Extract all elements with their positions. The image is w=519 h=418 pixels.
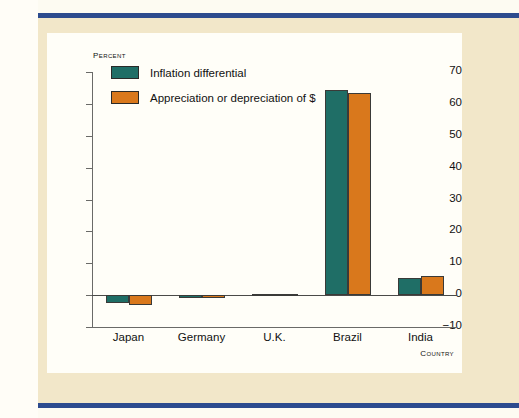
y-tick-label-10: 10 [426, 255, 462, 267]
page-binding-edge [0, 0, 38, 418]
y-tick-label-50: 50 [426, 128, 462, 140]
bar-germany-series2 [202, 295, 225, 298]
x-label-germany: Germany [165, 331, 238, 343]
y-tick-label-60: 60 [426, 96, 462, 108]
bar-india-series2 [421, 276, 444, 295]
legend-item-appreciation-depreciation: Appreciation or depreciation of $ [111, 88, 316, 107]
chart-legend: Inflation differential Appreciation or d… [111, 63, 316, 113]
legend-label-inflation-differential: Inflation differential [150, 67, 246, 79]
x-label-india: India [384, 331, 457, 343]
x-label-japan: Japan [92, 331, 165, 343]
bar-germany-series1 [179, 295, 202, 298]
y-tick-label-40: 40 [426, 160, 462, 172]
y-tick-label--10: −10 [426, 319, 462, 331]
x-axis-title: Country [420, 346, 454, 358]
bar-uk-series2 [275, 294, 298, 296]
x-axis-line [92, 327, 457, 328]
bar-brazil-series1 [325, 90, 348, 296]
x-label-uk: U.K. [238, 331, 311, 343]
legend-label-appreciation-depreciation: Appreciation or depreciation of $ [150, 92, 316, 104]
bar-chart: Percent −10010203040506070 Inflation dif… [47, 33, 462, 373]
legend-swatch-teal [111, 66, 139, 79]
bar-japan-series2 [129, 295, 152, 305]
bar-india-series1 [398, 278, 421, 296]
bar-japan-series1 [106, 295, 129, 303]
y-tick-label-30: 30 [426, 192, 462, 204]
y-axis-line [92, 72, 93, 328]
y-tick-label-20: 20 [426, 223, 462, 235]
y-axis-title: Percent [93, 48, 126, 60]
footer-rule [38, 403, 519, 408]
page-root: Percent −10010203040506070 Inflation dif… [0, 0, 519, 418]
bar-uk-series1 [252, 294, 275, 296]
y-tick-label-70: 70 [426, 64, 462, 76]
x-label-brazil: Brazil [311, 331, 384, 343]
legend-item-inflation-differential: Inflation differential [111, 63, 316, 82]
legend-swatch-orange [111, 91, 139, 104]
bar-brazil-series2 [348, 93, 371, 295]
